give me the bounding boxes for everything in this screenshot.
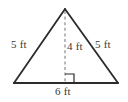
label-right-side: 5 ft [95,39,111,50]
right-angle-marker-icon [65,74,74,83]
geometry-figure-canvas: 5 ft 4 ft 5 ft 6 ft [0,0,128,102]
label-altitude-height: 4 ft [67,41,83,52]
label-left-side: 5 ft [11,39,27,50]
label-base: 6 ft [55,86,71,97]
